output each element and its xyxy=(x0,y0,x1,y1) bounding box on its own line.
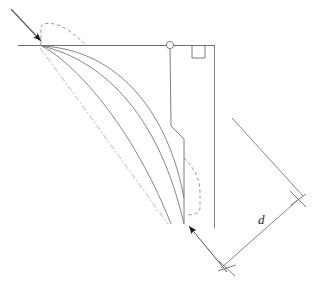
right-angle-marker-icon xyxy=(192,46,205,58)
dashed-outline-top xyxy=(41,23,86,45)
dimension-label-d: d xyxy=(258,212,265,227)
technical-diagram-figure: d xyxy=(0,0,327,285)
hinge-circle-icon xyxy=(166,41,173,48)
motion-arrow-top-left xyxy=(11,9,41,41)
dimension-extension-upper xyxy=(232,118,303,196)
dashdot-reference-centerline xyxy=(40,48,168,224)
dimension-line-d xyxy=(221,198,300,268)
diagram-canvas: d xyxy=(0,0,327,285)
blade-curve-outer xyxy=(42,46,184,224)
blade-curve-upper xyxy=(42,46,184,198)
dimension-extension-lower-arrow xyxy=(189,226,227,272)
blade-curve-inner xyxy=(42,46,171,224)
dashed-outline-bottom xyxy=(184,158,200,215)
